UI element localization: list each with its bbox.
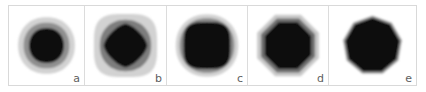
panel-d-graphic — [248, 6, 328, 85]
panel-e-label: e — [405, 73, 412, 85]
panel-c-graphic — [167, 6, 247, 85]
panel-d-core — [265, 22, 311, 68]
panel-c: c — [167, 6, 248, 85]
panel-b-graphic — [85, 6, 166, 85]
panel-c-label: c — [237, 73, 243, 85]
panel-c-core — [184, 22, 231, 69]
panel-d: d — [248, 6, 329, 85]
panel-a: a — [9, 6, 85, 85]
panel-e-graphic — [329, 6, 416, 85]
panel-a-label: a — [73, 73, 80, 85]
panel-strip: abcde — [8, 5, 417, 86]
panel-b: b — [85, 6, 167, 85]
panel-a-core — [29, 28, 64, 63]
figure-container: abcde — [0, 0, 426, 92]
panel-b-label: b — [155, 73, 162, 85]
panel-d-label: d — [317, 73, 324, 85]
panel-e: e — [329, 6, 416, 85]
